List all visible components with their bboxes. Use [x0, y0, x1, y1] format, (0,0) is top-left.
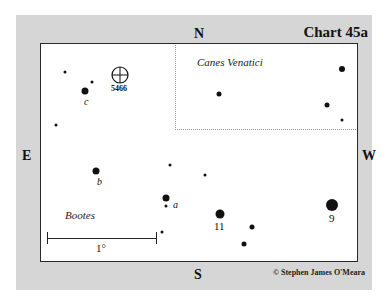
star [55, 124, 58, 127]
scale-label: 1° [96, 242, 106, 254]
star [204, 174, 207, 177]
copyright-credit: © Stephen James O'Meara [273, 268, 365, 277]
star-label-9: 9 [329, 213, 335, 224]
star [169, 164, 172, 167]
star-label-a: a [173, 200, 178, 210]
star-label-b: b [97, 177, 102, 187]
star [217, 92, 222, 97]
star [91, 81, 94, 84]
star [242, 242, 247, 247]
scale-tick-right [156, 232, 157, 244]
star [165, 205, 168, 208]
cluster-label: 5466 [111, 85, 127, 93]
star-label-c: c [84, 97, 88, 107]
star-label-11: 11 [214, 221, 225, 232]
constellation-label-bootes: Bootes [65, 209, 95, 221]
star-9 [326, 199, 338, 211]
star [339, 66, 345, 72]
globular-cluster-icon[interactable] [111, 66, 129, 84]
star [325, 103, 330, 108]
east-label: E [22, 149, 31, 163]
star-c [82, 88, 89, 95]
south-label: S [194, 268, 202, 282]
star [341, 119, 344, 122]
chart-title: Chart 45a [303, 25, 368, 40]
star-b [93, 168, 100, 175]
north-label: N [194, 27, 204, 41]
star-11 [216, 210, 225, 219]
star-a [163, 195, 170, 202]
west-label: W [362, 149, 376, 163]
star-field: Canes Venatici Bootes 5466 c b a 11 9 1° [40, 43, 358, 262]
star [64, 71, 67, 74]
star [161, 231, 164, 234]
star [250, 225, 255, 230]
constellation-label-canes-venatici: Canes Venatici [197, 56, 263, 68]
scale-tick-left [47, 232, 48, 244]
scale-line [47, 238, 157, 239]
